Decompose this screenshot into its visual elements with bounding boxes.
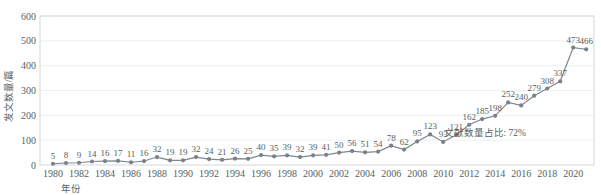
x-tick-label: 1992 xyxy=(199,168,219,179)
data-point-label: 16 xyxy=(101,148,111,158)
line-chart: 0100200300400500600 19801982198419861988… xyxy=(0,0,601,195)
data-point xyxy=(376,149,380,153)
y-tick-label: 300 xyxy=(21,85,36,96)
data-point-label: 162 xyxy=(462,112,476,122)
data-point xyxy=(506,100,510,104)
x-tick-label: 2000 xyxy=(303,168,323,179)
x-tick-label: 1994 xyxy=(225,168,245,179)
data-point xyxy=(519,103,523,107)
data-point xyxy=(467,123,471,127)
x-tick-label: 1980 xyxy=(43,168,63,179)
data-point xyxy=(194,155,198,159)
data-point xyxy=(363,150,367,154)
data-point xyxy=(129,160,133,164)
x-tick-label: 1986 xyxy=(121,168,141,179)
data-point xyxy=(571,45,575,49)
data-point-label: 26 xyxy=(231,146,241,156)
y-tick-label: 500 xyxy=(21,35,36,46)
data-point-label: 35 xyxy=(270,143,280,153)
y-tick-label: 100 xyxy=(21,135,36,146)
data-point xyxy=(233,156,237,160)
data-point xyxy=(480,117,484,121)
x-tick-label: 2012 xyxy=(459,168,479,179)
data-point xyxy=(272,154,276,158)
data-point xyxy=(90,159,94,163)
data-point-label: 17 xyxy=(114,148,124,158)
x-tick-label: 1990 xyxy=(173,168,193,179)
data-point xyxy=(584,47,588,51)
chart-annotations: 文献数量占比: 72% xyxy=(444,127,527,138)
x-tick-label: 2020 xyxy=(563,168,583,179)
data-point xyxy=(155,155,159,159)
data-point xyxy=(103,159,107,163)
data-point-label: 8 xyxy=(64,150,69,160)
data-point-label: 19 xyxy=(166,147,176,157)
data-point-label: 78 xyxy=(387,133,397,143)
data-point-label: 16 xyxy=(140,148,150,158)
data-point xyxy=(64,161,68,165)
data-point-label: 473 xyxy=(566,35,580,45)
data-point-label: 5 xyxy=(51,151,56,161)
data-point xyxy=(389,144,393,148)
data-point-label: 308 xyxy=(540,76,554,86)
data-point xyxy=(207,157,211,161)
y-axis-title: 发文数量/篇 xyxy=(3,70,14,123)
data-points xyxy=(51,45,588,165)
data-point xyxy=(493,114,497,118)
data-point xyxy=(220,158,224,162)
data-point-label: 466 xyxy=(579,36,593,46)
x-tick-label: 1988 xyxy=(147,168,167,179)
data-point xyxy=(441,140,445,144)
x-axis-title: 年份 xyxy=(61,183,81,194)
chart-svg: 0100200300400500600 19801982198419861988… xyxy=(0,0,601,195)
x-tick-label: 2010 xyxy=(433,168,453,179)
data-point xyxy=(311,153,315,157)
data-point-label: 41 xyxy=(322,142,331,152)
data-point xyxy=(142,159,146,163)
data-point xyxy=(402,148,406,152)
x-axis-ticks: 1980198219841986198819901992199419961998… xyxy=(43,168,583,179)
data-point-label: 51 xyxy=(361,139,370,149)
x-tick-label: 2014 xyxy=(485,168,505,179)
data-point xyxy=(298,155,302,159)
data-point-label: 62 xyxy=(400,137,409,147)
data-point-label: 50 xyxy=(335,140,345,150)
data-point xyxy=(324,153,328,157)
data-point xyxy=(246,157,250,161)
y-tick-label: 200 xyxy=(21,110,36,121)
data-point-labels: 5891416171116321919322421262540353932394… xyxy=(51,35,594,161)
x-tick-label: 2004 xyxy=(355,168,375,179)
data-point-label: 56 xyxy=(348,138,358,148)
data-point-label: 9 xyxy=(77,150,82,160)
x-tick-label: 1982 xyxy=(69,168,89,179)
x-tick-label: 1998 xyxy=(277,168,297,179)
data-point-label: 32 xyxy=(296,144,305,154)
data-point-label: 40 xyxy=(257,142,267,152)
series-line xyxy=(53,48,586,164)
data-point-label: 252 xyxy=(501,89,515,99)
data-point-label: 198 xyxy=(488,103,502,113)
x-tick-label: 1996 xyxy=(251,168,271,179)
x-tick-label: 2016 xyxy=(511,168,531,179)
data-point xyxy=(532,94,536,98)
data-point-label: 123 xyxy=(423,121,437,131)
data-point-label: 14 xyxy=(88,149,98,159)
data-point xyxy=(545,86,549,90)
data-point-label: 32 xyxy=(153,144,162,154)
data-point-label: 39 xyxy=(309,142,319,152)
data-point xyxy=(337,150,341,154)
y-tick-label: 600 xyxy=(21,11,36,22)
data-point-label: 32 xyxy=(192,144,201,154)
data-point-label: 19 xyxy=(179,147,189,157)
x-tick-label: 1984 xyxy=(95,168,115,179)
y-tick-label: 400 xyxy=(21,60,36,71)
data-point xyxy=(415,139,419,143)
y-axis-ticks: 0100200300400500600 xyxy=(21,11,36,171)
data-point xyxy=(51,162,55,166)
data-point-label: 39 xyxy=(283,142,293,152)
data-point xyxy=(259,153,263,157)
data-point-label: 279 xyxy=(527,83,541,93)
data-point xyxy=(77,161,81,165)
data-point xyxy=(285,153,289,157)
data-point xyxy=(558,79,562,83)
